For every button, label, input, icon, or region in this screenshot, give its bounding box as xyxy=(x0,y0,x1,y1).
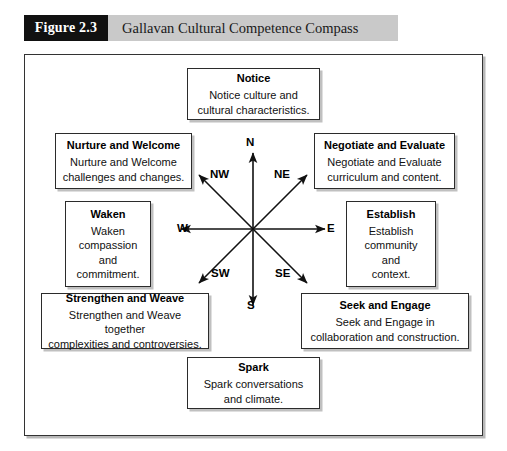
compass-label-s: S xyxy=(247,300,255,312)
compass-label-nw: NW xyxy=(210,169,229,181)
compass-arrow-ne xyxy=(253,175,307,229)
figure-frame: N NE E SE S SW W NW Notice Notice cultur… xyxy=(24,54,483,436)
compass-label-e: E xyxy=(327,223,335,235)
compass-arrow-nw xyxy=(199,175,253,229)
concept-body-establish: Establish community and context. xyxy=(364,224,417,281)
concept-body-seek: Seek and Engage in collaboration and con… xyxy=(310,315,459,344)
concept-title-nurture: Nurture and Welcome xyxy=(67,138,181,152)
compass-label-n: N xyxy=(246,137,254,149)
concept-box-negotiate-and-evaluate: Negotiate and Evaluate Negotiate and Eva… xyxy=(314,133,455,189)
compass-label-se: SE xyxy=(275,268,290,280)
concept-title-negotiate: Negotiate and Evaluate xyxy=(324,138,445,152)
concept-body-notice: Notice culture and cultural characterist… xyxy=(198,88,310,117)
concept-box-notice: Notice Notice culture and cultural chara… xyxy=(187,68,320,120)
compass-label-w: W xyxy=(177,223,188,235)
concept-box-nurture-and-welcome: Nurture and Welcome Nurture and Welcome … xyxy=(55,133,192,189)
concept-title-seek: Seek and Engage xyxy=(339,298,430,312)
concept-body-negotiate: Negotiate and Evaluate curriculum and co… xyxy=(327,155,441,184)
figure-title: Gallavan Cultural Competence Compass xyxy=(108,15,398,41)
concept-title-strengthen: Strengthen and Weave xyxy=(66,291,184,305)
concept-title-notice: Notice xyxy=(237,71,271,85)
concept-body-spark: Spark conversations and climate. xyxy=(204,377,304,406)
figure-caption-header: Figure 2.3 Gallavan Cultural Competence … xyxy=(24,15,398,41)
concept-title-establish: Establish xyxy=(367,207,416,221)
concept-body-strengthen: Strengthen and Weave together complexiti… xyxy=(48,308,202,351)
concept-title-spark: Spark xyxy=(238,360,269,374)
figure-number-badge: Figure 2.3 xyxy=(24,15,108,41)
concept-body-waken: Waken compassion and commitment. xyxy=(77,224,140,281)
concept-title-waken: Waken xyxy=(90,207,125,221)
compass-label-ne: NE xyxy=(274,169,290,181)
compass-label-sw: SW xyxy=(211,268,230,280)
concept-body-nurture: Nurture and Welcome challenges and chang… xyxy=(63,155,185,184)
concept-box-strengthen-and-weave: Strengthen and Weave Strengthen and Weav… xyxy=(41,293,209,349)
concept-box-waken: Waken Waken compassion and commitment. xyxy=(65,201,151,287)
concept-box-spark: Spark Spark conversations and climate. xyxy=(187,357,320,409)
concept-box-establish: Establish Establish community and contex… xyxy=(346,201,436,287)
concept-box-seek-and-engage: Seek and Engage Seek and Engage in colla… xyxy=(301,293,469,349)
